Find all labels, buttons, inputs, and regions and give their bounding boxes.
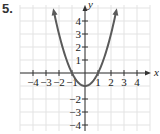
y-tick-label: 1 — [76, 54, 82, 66]
y-tick-label: 4 — [76, 15, 82, 27]
y-axis-label: y — [87, 0, 93, 10]
y-tick-label: −3 — [69, 106, 81, 118]
x-tick-label: −3 — [40, 76, 52, 88]
x-tick-label: −4 — [27, 76, 39, 88]
x-axis-label: x — [153, 66, 159, 78]
x-tick-label: −2 — [53, 76, 65, 88]
parabola-graph: xy−4−3−2−112344321−2−3−4 — [0, 0, 160, 134]
x-tick-label: 3 — [121, 76, 127, 88]
curve-arrow-icon — [112, 8, 118, 15]
y-tick-label: 2 — [76, 41, 82, 53]
y-tick-label: −2 — [69, 93, 81, 105]
x-tick-label: 4 — [134, 76, 140, 88]
x-tick-label: −1 — [66, 76, 78, 88]
curve-arrow-icon — [52, 8, 58, 15]
y-tick-label: −4 — [69, 119, 81, 131]
x-tick-label: 2 — [108, 76, 114, 88]
y-tick-label: 3 — [76, 28, 82, 40]
